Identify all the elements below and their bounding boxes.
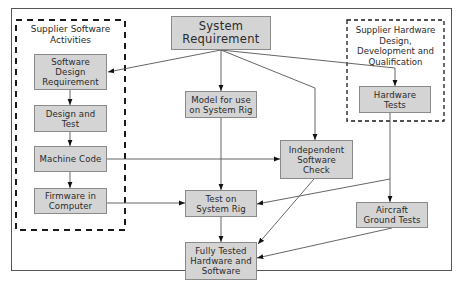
edge-isc-fullytested [258,179,314,244]
node-aircraft-ground-tests: Aircraft Ground Tests [356,202,428,228]
node-firmware-in-computer: Firmware in Computer [34,188,107,214]
node-system-requirement: System Requirement [171,16,271,50]
edge-sysreq-swdesign [108,50,221,72]
edge-hwtests-testrig [257,179,390,204]
node-fully-tested: Fully Tested Hardware and Software [185,242,257,280]
node-machine-code: Machine Code [34,146,107,172]
node-design-and-test: Design and Test [34,105,107,132]
node-independent-software-check: Independent Software Check [280,140,353,179]
diagram-canvas: Supplier Software Activities Supplier Ha… [0,0,462,298]
node-hardware-tests: Hardware Tests [359,86,431,113]
node-model-for-system-rig: Model for use on System Rig [185,91,257,118]
node-software-design-requirement: Software Design Requirement [34,54,107,90]
edge-agt-fullytested [257,228,392,258]
hardware-group-label: Supplier Hardware Design, Development an… [349,25,442,67]
node-test-on-system-rig: Test on System Rig [185,190,257,217]
software-group-label: Supplier Software Activities [18,24,123,46]
